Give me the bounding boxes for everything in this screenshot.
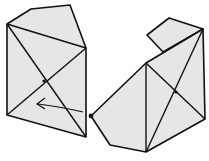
right-center-dot — [174, 90, 177, 93]
right-vertex-dot — [89, 114, 94, 119]
right-polygon — [89, 18, 205, 152]
diagram-svg — [0, 0, 209, 161]
left-outline — [7, 5, 86, 137]
dissection-diagram — [0, 0, 209, 161]
left-polygon — [7, 5, 86, 137]
right-outline — [91, 29, 205, 152]
left-center-dot — [42, 79, 45, 82]
